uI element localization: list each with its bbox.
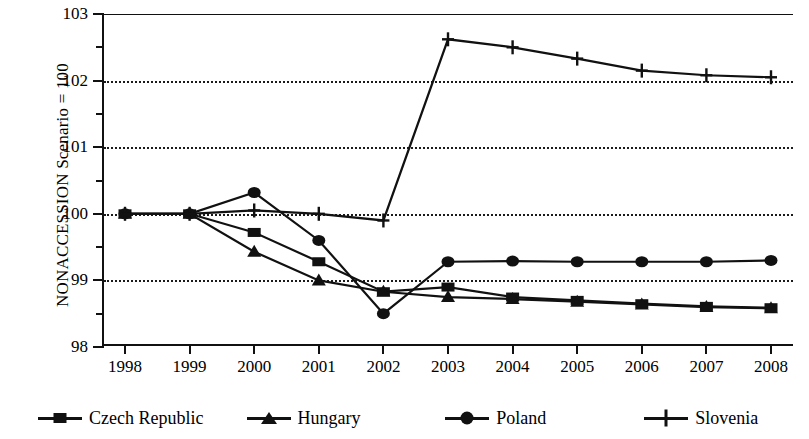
x-tick-label: 2001: [302, 357, 336, 377]
plot-area: 9899100101102103 19981999200020012002200…: [102, 14, 792, 346]
legend-label: Hungary: [298, 408, 361, 429]
data-point-marker: [442, 256, 455, 267]
series-slovenia: [119, 32, 777, 227]
legend-item-czech-republic[interactable]: Czech Republic: [38, 408, 247, 429]
data-point-marker: [248, 203, 260, 217]
data-point-marker: [442, 32, 454, 46]
y-tick-label: 103: [63, 4, 89, 24]
data-point-marker: [248, 228, 261, 237]
plus-marker-icon: [644, 408, 688, 428]
legend-item-hungary[interactable]: Hungary: [247, 408, 446, 429]
data-point-marker: [312, 235, 325, 246]
x-tick-label: 2000: [237, 357, 271, 377]
data-point-marker: [700, 256, 713, 267]
data-point-marker: [571, 52, 583, 66]
data-point-marker: [377, 213, 389, 227]
triangle-marker-icon: [247, 408, 291, 428]
x-tick-label: 2006: [625, 357, 659, 377]
data-point-marker: [506, 256, 519, 267]
x-tick-label: 2005: [560, 357, 594, 377]
data-point-marker: [313, 207, 325, 221]
data-point-marker: [312, 257, 325, 266]
data-point-marker: [571, 256, 584, 267]
data-point-marker: [765, 255, 778, 266]
legend-item-poland[interactable]: Poland: [445, 408, 644, 429]
y-tick-label: 101: [63, 137, 89, 157]
series-plot: [102, 14, 793, 347]
x-tick-label: 2008: [754, 357, 788, 377]
data-point-marker: [507, 40, 519, 54]
line-chart: NONACCESSION Scenario = 100 989910010110…: [0, 0, 809, 439]
y-tick-label: 99: [71, 270, 88, 290]
data-point-marker: [700, 68, 712, 82]
y-tick-label: 102: [63, 70, 89, 90]
legend-label: Czech Republic: [89, 408, 203, 429]
x-tick-label: 2002: [366, 357, 400, 377]
legend-label: Poland: [496, 408, 546, 429]
chart-legend: Czech RepublicHungaryPolandSlovenia: [0, 400, 809, 436]
data-point-marker: [377, 308, 390, 319]
y-tick-label: 98: [71, 337, 88, 357]
circle-marker-icon: [445, 408, 489, 428]
square-marker-icon: [38, 408, 82, 428]
x-tick-label: 2007: [689, 357, 723, 377]
x-tick-label: 1999: [173, 357, 207, 377]
legend-item-slovenia[interactable]: Slovenia: [644, 408, 809, 429]
legend-label: Slovenia: [695, 408, 758, 429]
data-point-marker: [636, 64, 648, 78]
x-tick-label: 2004: [496, 357, 530, 377]
x-tick-label: 2003: [431, 357, 465, 377]
data-point-marker: [765, 70, 777, 84]
data-point-marker: [635, 256, 648, 267]
data-point-marker: [247, 245, 261, 257]
y-tick-label: 100: [63, 203, 89, 223]
data-point-marker: [248, 187, 261, 198]
x-tick-label: 1998: [108, 357, 142, 377]
series-line: [125, 39, 771, 220]
